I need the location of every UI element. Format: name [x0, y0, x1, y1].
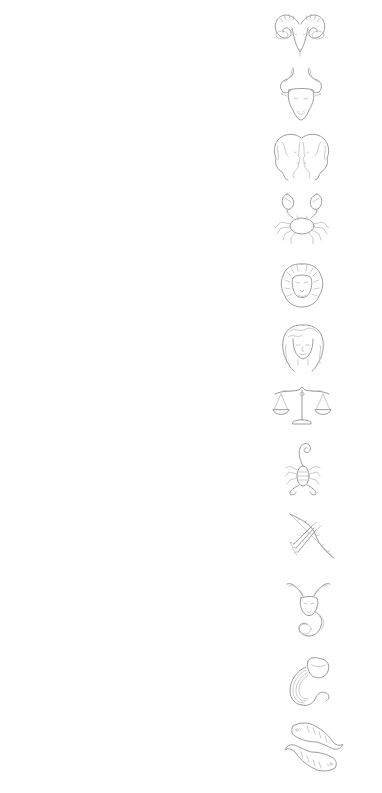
- sea-goat-icon: Capricorn: [285, 578, 332, 638]
- scorpion-icon: Scorpio: [284, 440, 322, 497]
- maiden-face-icon: Virgo: [280, 323, 326, 372]
- water-vessel-icon: Aquarius: [288, 655, 332, 708]
- twin-faces-icon: Gemini: [270, 132, 333, 181]
- zodiac-canvas: Aries Taurus Gemini: [0, 0, 382, 793]
- ram-head-icon: Aries: [272, 10, 328, 57]
- scales-icon: Libra: [271, 384, 333, 428]
- lion-head-icon: Leo: [279, 262, 325, 308]
- crab-icon: Cancer: [273, 190, 331, 245]
- two-fish-icon: Pisces: [283, 720, 345, 775]
- bull-head-icon: Taurus: [277, 66, 325, 121]
- bow-and-arrow-icon: Sagittarius: [284, 510, 336, 561]
